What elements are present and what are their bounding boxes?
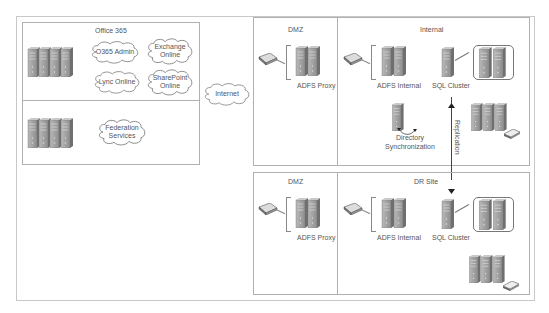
dr-dmz-label: DMZ [288, 178, 303, 185]
internet-cloud: Internet [203, 82, 251, 106]
office365-label: Office 365 [95, 27, 127, 34]
dr-adfs-internal-label: ADFS Internal [377, 234, 421, 241]
dr-sql-node [441, 199, 455, 233]
primary-sql-cluster-label: SQL Cluster [432, 82, 470, 89]
sharepoint-online-cloud: SharePoint Online [146, 68, 194, 96]
primary-internal-bracket [371, 45, 376, 80]
dr-site-label: DR Site [414, 178, 438, 185]
replication-arrow-up-icon [448, 94, 455, 112]
federation-services-cloud: Federation Services [97, 118, 147, 146]
dr-internal-bracket [371, 197, 376, 232]
primary-dmz-bracket [286, 45, 291, 80]
dr-dmz-bracket [286, 197, 291, 232]
primary-dmz-divider [337, 17, 338, 166]
primary-disk-icon [504, 125, 520, 143]
exchange-online-cloud: Exchange Online [146, 37, 194, 65]
dr-adfs-internal-server [381, 198, 417, 234]
primary-adfs-internal-server [381, 46, 417, 82]
office365-server-rack [27, 47, 87, 83]
primary-dmz-label: DMZ [288, 26, 303, 33]
dr-dmz-divider [337, 172, 338, 295]
lync-online-cloud: Lync Online [93, 70, 141, 94]
dr-disk-icon [503, 277, 519, 295]
replication-label: Replication [454, 120, 461, 155]
federation-server-rack [27, 118, 87, 154]
dr-sql-cluster-box [473, 197, 514, 232]
dirsync-label: Directory Synchronization [378, 133, 442, 151]
dr-adfs-proxy-label: ADFS Proxy [297, 234, 336, 241]
primary-internal-label: Internal [420, 26, 443, 33]
dr-sql-cluster-label: SQL Cluster [432, 234, 470, 241]
office365-divider [22, 100, 200, 101]
primary-adfs-proxy-label: ADFS Proxy [297, 82, 336, 89]
primary-adfs-internal-label: ADFS Internal [377, 82, 421, 89]
primary-sql-node [441, 47, 455, 81]
primary-adfs-proxy-server [295, 46, 331, 82]
primary-sql-cluster-box [473, 45, 514, 80]
o365-admin-cloud: O365 Admin [90, 40, 140, 64]
dr-adfs-proxy-server [295, 198, 331, 234]
